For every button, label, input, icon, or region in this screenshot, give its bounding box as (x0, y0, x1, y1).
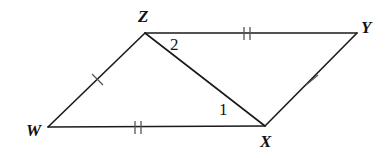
vertex-label-Y: Y (361, 19, 371, 36)
geometry-figure: W X Y Z 1 2 (0, 0, 392, 158)
geometry-canvas (0, 0, 392, 158)
segment-ZX-diagonal (145, 33, 265, 126)
angle-label-1: 1 (219, 101, 228, 118)
tick-mark-YX-single (306, 75, 318, 85)
vertex-label-X: X (260, 133, 271, 150)
tick-mark-XW-double (135, 121, 141, 134)
angle-label-2: 2 (170, 36, 179, 53)
segment-YX (265, 33, 357, 126)
segment-WZ (48, 33, 145, 127)
vertex-label-W: W (26, 122, 41, 139)
segment-XW (48, 126, 265, 127)
vertex-label-Z: Z (138, 8, 148, 25)
